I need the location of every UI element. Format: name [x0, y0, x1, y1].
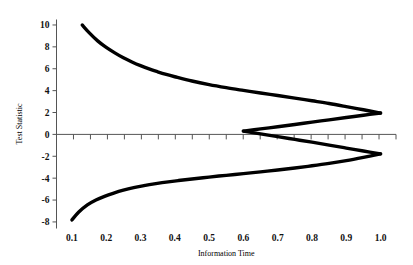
y-tick-label: 4 [45, 86, 50, 96]
x-tick-label: 0.1 [66, 233, 78, 243]
upper-efficacy-boundary [82, 25, 380, 113]
x-tick-label: 0.2 [100, 233, 112, 243]
x-axis-title: Information Time [198, 249, 255, 258]
y-tick-label: -4 [42, 174, 50, 184]
y-tick-label: -8 [42, 217, 50, 227]
x-tick-label: 0.6 [237, 233, 249, 243]
boundary-curves [72, 25, 381, 220]
x-tick-label: 0.4 [169, 233, 181, 243]
x-tick-label: 0.7 [272, 233, 284, 243]
x-tick-label: 0.5 [203, 233, 215, 243]
y-axis-title: Test Statistic [15, 103, 24, 144]
lower-efficacy-boundary [72, 154, 381, 220]
y-tick-label: -6 [42, 195, 50, 205]
y-tick-label: 2 [45, 108, 50, 118]
y-tick-label: 8 [45, 42, 50, 52]
x-tick-label: 0.9 [340, 233, 352, 243]
x-tick-label: 1.0 [375, 233, 387, 243]
boundary-plot: -8-6-4-20246810 0.10.20.30.40.50.60.70.8… [0, 0, 413, 265]
x-axis-ticks [73, 134, 396, 139]
y-tick-label: 0 [45, 130, 50, 140]
upper-futility-boundary [243, 113, 380, 131]
x-tick-label: 0.8 [306, 233, 318, 243]
y-axis-ticks [53, 25, 57, 222]
x-axis-tick-labels: 0.10.20.30.40.50.60.70.80.91.0 [66, 233, 387, 243]
y-tick-label: 6 [45, 64, 50, 74]
chart-figure: -8-6-4-20246810 0.10.20.30.40.50.60.70.8… [0, 0, 413, 265]
y-tick-label: -2 [42, 152, 50, 162]
x-tick-label: 0.3 [135, 233, 147, 243]
y-axis-tick-labels: -8-6-4-20246810 [40, 20, 50, 227]
y-tick-label: 10 [40, 20, 50, 30]
